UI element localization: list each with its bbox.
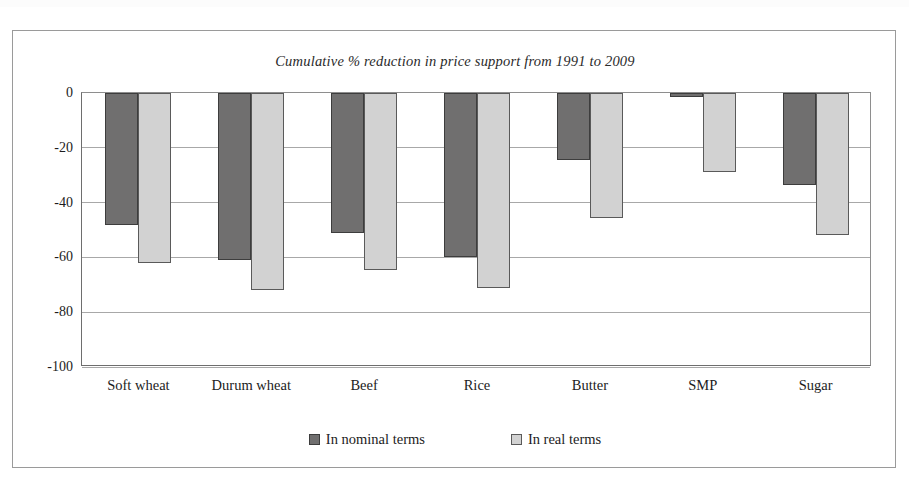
bar-real xyxy=(251,93,284,290)
legend-label: In real terms xyxy=(528,431,601,448)
figure-frame: Cumulative % reduction in price support … xyxy=(12,30,896,468)
legend-entry: In nominal terms xyxy=(309,431,425,448)
x-axis-category-label: Sugar xyxy=(799,377,833,394)
bar-real xyxy=(477,93,510,288)
bar-nominal xyxy=(444,93,477,257)
bar-nominal xyxy=(105,93,138,225)
chart-legend: In nominal termsIn real terms xyxy=(13,431,897,448)
bar-nominal xyxy=(331,93,364,233)
legend-entry: In real terms xyxy=(511,431,601,448)
gridline xyxy=(82,367,870,368)
bar-real xyxy=(138,93,171,263)
chart-title: Cumulative % reduction in price support … xyxy=(13,53,897,70)
bar-nominal xyxy=(218,93,251,260)
bar-real xyxy=(703,93,736,172)
x-axis-category-label: Rice xyxy=(464,377,491,394)
bar-group: Butter xyxy=(533,93,646,365)
bar-real xyxy=(364,93,397,270)
bar-nominal xyxy=(783,93,816,185)
x-axis-category-label: SMP xyxy=(688,377,717,394)
bar-group: Beef xyxy=(308,93,421,365)
y-axis-tick-label: -80 xyxy=(54,304,73,320)
x-axis-category-label: Butter xyxy=(572,377,608,394)
y-axis-tick-label: -100 xyxy=(47,359,73,375)
plot-area: 0-20-40-60-80-100Soft wheatDurum wheatBe… xyxy=(81,92,871,366)
nominal-swatch xyxy=(309,434,320,445)
x-axis-category-label: Soft wheat xyxy=(107,377,169,394)
bar-nominal xyxy=(557,93,590,160)
legend-label: In nominal terms xyxy=(326,431,425,448)
bar-group: Durum wheat xyxy=(195,93,308,365)
bar-group: Soft wheat xyxy=(82,93,195,365)
y-axis-tick-label: -20 xyxy=(54,140,73,156)
bar-group: SMP xyxy=(646,93,759,365)
y-axis-tick-label: 0 xyxy=(66,85,73,101)
y-axis-tick-label: -40 xyxy=(54,195,73,211)
bar-real xyxy=(590,93,623,218)
scanned-page: Cumulative % reduction in price support … xyxy=(0,0,909,498)
bar-nominal xyxy=(670,93,703,97)
bar-real xyxy=(816,93,849,235)
x-axis-category-label: Durum wheat xyxy=(212,377,291,394)
real-swatch xyxy=(511,434,522,445)
x-axis-category-label: Beef xyxy=(350,377,377,394)
bar-group: Rice xyxy=(421,93,534,365)
y-axis-tick-label: -60 xyxy=(54,249,73,265)
bar-group: Sugar xyxy=(759,93,872,365)
